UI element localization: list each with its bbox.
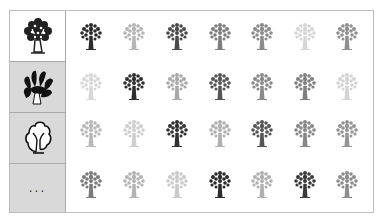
bushy-tree-icon [20,67,56,107]
tree-icon[interactable] [78,169,104,199]
tree-icon[interactable] [207,21,233,51]
tree-icon[interactable] [121,71,147,101]
tree-icon[interactable] [164,118,190,148]
tree-icon[interactable] [334,118,360,148]
tree-icon[interactable] [292,118,318,148]
tree-icon[interactable] [207,71,233,101]
tree-icon[interactable] [249,21,275,51]
tree-icon[interactable] [164,169,190,199]
tree-icon[interactable] [207,169,233,199]
tree-icon[interactable] [207,118,233,148]
tree-icon[interactable] [334,71,360,101]
tree-icon[interactable] [292,169,318,199]
outline-tree-icon [22,118,54,158]
tree-icon[interactable] [334,21,360,51]
tree-icon[interactable] [334,169,360,199]
icon-grid [66,11,373,212]
tree-icon[interactable] [249,71,275,101]
category-more-button[interactable]: ... [10,164,65,212]
tree-icon[interactable] [292,21,318,51]
category-bushy-tree[interactable] [10,62,65,113]
leafy-tree-icon [21,16,55,56]
tree-icon[interactable] [164,71,190,101]
tree-icon[interactable] [164,21,190,51]
tree-icon[interactable] [249,118,275,148]
tree-icon[interactable] [121,169,147,199]
tree-icon[interactable] [78,21,104,51]
category-leafy-tree[interactable] [10,11,65,62]
tree-icon[interactable] [121,21,147,51]
icon-picker-panel: ... [9,10,374,213]
tree-icon[interactable] [121,118,147,148]
category-outline-tree[interactable] [10,113,65,164]
tree-icon[interactable] [292,71,318,101]
tree-icon[interactable] [78,71,104,101]
more-label: ... [29,181,46,195]
category-sidebar: ... [10,11,66,212]
tree-icon[interactable] [249,169,275,199]
tree-icon[interactable] [78,118,104,148]
